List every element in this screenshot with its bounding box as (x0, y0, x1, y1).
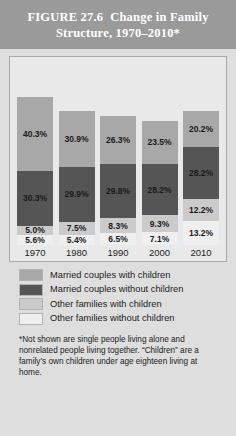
bar-segment-value: 28.2% (147, 185, 171, 195)
bar-segment: 23.5% (142, 121, 178, 164)
legend-item: Married couples without children (19, 284, 225, 296)
figure-header: FIGURE 27.6Change in Family Structure, 1… (0, 0, 236, 49)
bar-column-2010: 20.2%28.2%12.2%13.2% (183, 63, 219, 245)
bar-segment: 28.2% (183, 147, 219, 198)
bar-segment: 20.2% (183, 111, 219, 148)
chart-legend: Married couples with childrenMarried cou… (9, 262, 227, 327)
bar-segment-value: 7.1% (150, 234, 169, 244)
bar-segment-value: 6.5% (108, 234, 127, 244)
legend-swatch-icon (19, 284, 43, 296)
bar-segment: 40.3% (17, 97, 53, 170)
bar-segment: 5.6% (17, 235, 53, 245)
legend-swatch-icon (19, 269, 43, 281)
bar-segment: 8.3% (100, 218, 136, 233)
bar-segment: 5.0% (17, 226, 53, 235)
bar-segment: 7.5% (59, 222, 95, 236)
x-axis-label-1980: 1980 (59, 247, 95, 258)
bar-segment: 5.4% (59, 235, 95, 245)
legend-item: Married couples with children (19, 269, 225, 281)
legend-item-label: Married couples without children (50, 284, 183, 294)
legend-item: Other families without children (19, 313, 225, 325)
bar-segment-value: 29.8% (106, 186, 130, 196)
bar-segment-value: 12.2% (189, 205, 213, 215)
x-axis-year-labels: 19701980199020002010 (15, 245, 221, 258)
x-axis-label-2010: 2010 (183, 247, 219, 258)
bar-segment: 29.8% (100, 164, 136, 218)
bar-segment-value: 28.2% (189, 168, 213, 178)
bar-group: 40.3%30.3%5.0%5.6%30.9%29.9%7.5%5.4%26.3… (15, 63, 221, 245)
bar-segment: 28.2% (142, 164, 178, 215)
x-axis-label-2000: 2000 (142, 247, 178, 258)
bar-segment: 9.3% (142, 215, 178, 232)
bar-column-1990: 26.3%29.8%8.3%6.5% (100, 63, 136, 245)
bar-segment: 30.3% (17, 171, 53, 226)
legend-swatch-icon (19, 313, 43, 325)
bar-segment-value: 9.3% (150, 219, 169, 229)
bar-segment-value: 5.6% (25, 235, 44, 245)
bar-segment-value: 5.0% (25, 225, 44, 235)
bar-segment-value: 30.9% (64, 134, 88, 144)
legend-item-label: Other families without children (50, 313, 175, 323)
bar-segment-value: 5.4% (67, 235, 86, 245)
bar-segment-value: 7.5% (67, 223, 86, 233)
bar-segment-value: 29.9% (64, 189, 88, 199)
x-axis-label-1990: 1990 (100, 247, 136, 258)
bar-segment: 7.1% (142, 232, 178, 245)
bar-segment-value: 26.3% (106, 135, 130, 145)
bar-column-1980: 30.9%29.9%7.5%5.4% (59, 63, 95, 245)
figure-number: FIGURE 27.6 (27, 10, 103, 24)
bar-column-1970: 40.3%30.3%5.0%5.6% (17, 63, 53, 245)
legend-item: Other families with children (19, 298, 225, 310)
bar-segment: 12.2% (183, 199, 219, 221)
figure-body: 40.3%30.3%5.0%5.6%30.9%29.9%7.5%5.4%26.3… (0, 49, 236, 436)
bar-segment-value: 40.3% (23, 129, 47, 139)
bar-segment-value: 13.2% (189, 228, 213, 238)
bar-segment-value: 8.3% (108, 221, 127, 231)
bar-segment-value: 20.2% (189, 124, 213, 134)
bar-segment-value: 23.5% (147, 137, 171, 147)
legend-item-label: Other families with children (50, 299, 162, 309)
figure-container: FIGURE 27.6Change in Family Structure, 1… (0, 0, 236, 436)
bar-column-2000: 23.5%28.2%9.3%7.1% (142, 63, 178, 245)
chart-plot-area: 40.3%30.3%5.0%5.6%30.9%29.9%7.5%5.4%26.3… (9, 56, 227, 262)
bar-segment: 6.5% (100, 233, 136, 245)
bar-segment: 26.3% (100, 116, 136, 164)
bar-segment: 29.9% (59, 167, 95, 221)
bar-segment-value: 30.3% (23, 193, 47, 203)
x-axis-label-1970: 1970 (17, 247, 53, 258)
bar-segment: 13.2% (183, 221, 219, 245)
legend-item-label: Married couples with children (50, 270, 170, 280)
legend-swatch-icon (19, 298, 43, 310)
bar-segment: 30.9% (59, 111, 95, 167)
figure-footnote: *Not shown are single people living alon… (9, 327, 227, 379)
